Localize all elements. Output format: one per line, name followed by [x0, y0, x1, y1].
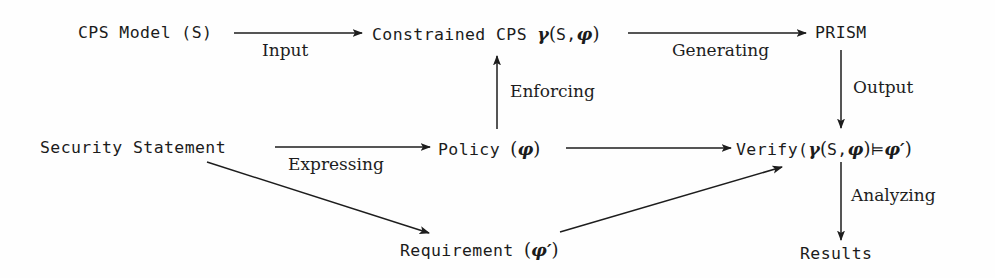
phi-symbol: φ [577, 24, 593, 44]
edge-label-input: Input [262, 42, 308, 59]
paren-close: ) [533, 138, 540, 159]
node-requirement-label: Requirement [400, 241, 524, 260]
node-verify-label: Verify( [736, 140, 808, 159]
edge-label-expressing: Expressing [288, 156, 384, 173]
phi-symbol: φ [517, 139, 533, 159]
edge-label-analyzing-text: Analyzing [851, 185, 936, 205]
edge-label-output: Output [853, 79, 913, 96]
edge-label-expressing-text: Expressing [288, 154, 384, 174]
phi-symbol: φ [848, 139, 864, 159]
gamma-symbol: γ [537, 24, 549, 44]
node-requirement: Requirement (φ′) [400, 241, 559, 260]
paren-open: ( [820, 138, 827, 159]
paren-close-outer: ) [905, 138, 912, 159]
node-verify: Verify(γ(S,φ)⊨φ′) [736, 140, 912, 159]
edge-requirement-to-verify [560, 167, 782, 232]
paren-open: ( [524, 239, 531, 260]
node-security-statement: Security Statement [40, 140, 226, 157]
edge-label-generating-text: Generating [672, 40, 769, 60]
entails-icon: ⊨ [870, 140, 884, 159]
node-results-label: Results [800, 244, 872, 263]
paren-close: ) [552, 239, 559, 260]
edge-label-enforcing: Enforcing [510, 83, 595, 100]
node-prism: PRISM [815, 25, 867, 42]
node-constrained-cps-label: Constrained CPS [372, 25, 537, 44]
paren-close: ) [592, 23, 599, 44]
state-symbol: S, [827, 140, 848, 159]
edge-label-enforcing-text: Enforcing [510, 81, 595, 101]
node-security-statement-label: Security Statement [40, 138, 226, 157]
edge-label-generating: Generating [672, 42, 769, 59]
node-policy-label: Policy [438, 140, 510, 159]
node-prism-label: PRISM [815, 23, 867, 42]
phi-prime-symbol: φ′ [531, 240, 551, 260]
diagram-canvas: CPS Model (S) Constrained CPS γ(S,φ) PRI… [0, 0, 995, 278]
paren-open: ( [549, 23, 556, 44]
gamma-symbol: γ [808, 139, 820, 159]
edge-label-output-text: Output [853, 77, 913, 97]
node-constrained-cps: Constrained CPS γ(S,φ) [372, 25, 599, 44]
edge-label-analyzing: Analyzing [851, 187, 936, 204]
node-policy: Policy (φ) [438, 140, 540, 159]
state-symbol: S, [556, 25, 577, 44]
phi-prime-symbol: φ′ [884, 139, 904, 159]
edge-label-input-text: Input [262, 40, 308, 60]
node-cps-model: CPS Model (S) [78, 25, 212, 42]
node-cps-model-label: CPS Model (S) [78, 23, 212, 42]
node-results: Results [800, 246, 872, 263]
